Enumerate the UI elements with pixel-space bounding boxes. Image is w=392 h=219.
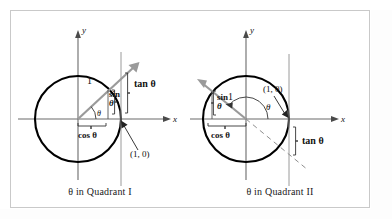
theta-arc	[91, 107, 96, 119]
x-axis	[18, 116, 171, 122]
point-label: (1, 0)	[263, 85, 283, 94]
cos-brace	[208, 123, 246, 129]
radius-label: 1	[228, 92, 233, 102]
theta-label: θ	[97, 110, 101, 118]
cos-label: cos θ	[211, 131, 230, 140]
panel-quadrant-1: y x 1 sin θ cos θ tan θ θ (1, 0) θ in Qu…	[10, 10, 190, 208]
y-axis	[243, 30, 249, 180]
sin-label-line2: θ	[217, 102, 228, 111]
tan-label: tan θ	[302, 136, 324, 146]
y-axis-label: y	[82, 26, 86, 35]
tan-label: tan θ	[134, 79, 156, 89]
radius-label: 1	[87, 76, 92, 86]
trig-unit-circle-figure: y x 1 sin θ cos θ tan θ θ (1, 0) θ in Qu…	[0, 0, 392, 219]
y-axis	[75, 30, 81, 180]
page-edge-right	[371, 10, 392, 219]
point-pointer-arrow	[121, 120, 138, 150]
tan-brace	[293, 127, 298, 155]
y-axis-label: y	[250, 26, 254, 35]
x-axis-label: x	[173, 115, 177, 124]
theta-label: θ	[266, 103, 270, 112]
x-axis-label: x	[341, 115, 345, 124]
point-label: (1, 0)	[130, 150, 150, 159]
cos-brace	[78, 123, 106, 129]
caption-quadrant-1: θ in Quadrant I	[10, 186, 190, 197]
sin-label-line2: θ	[109, 99, 120, 108]
caption-quadrant-2: θ in Quadrant II	[190, 186, 370, 197]
sin-label: sin θ	[217, 93, 228, 111]
page-edge-bottom	[0, 209, 392, 219]
tan-brace	[125, 73, 130, 113]
ray-dashed-extension	[246, 119, 308, 170]
cos-label: cos θ	[78, 131, 97, 140]
sin-label: sin θ	[109, 90, 120, 108]
panel-quadrant-2: y x 1 sin θ cos θ tan θ θ (1, 0) θ in Qu…	[190, 10, 370, 208]
